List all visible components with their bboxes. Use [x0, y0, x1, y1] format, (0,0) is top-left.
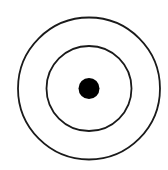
center-dot [79, 78, 100, 99]
target-diagram [0, 0, 168, 170]
